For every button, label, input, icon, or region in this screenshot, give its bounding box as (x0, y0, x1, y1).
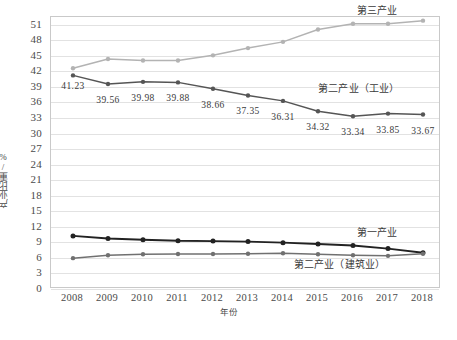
data-value-label: 34.32 (306, 122, 329, 132)
series-point-marker (281, 240, 286, 245)
x-tick-label: 2012 (201, 292, 223, 304)
y-tick-label: 15 (30, 205, 42, 216)
y-tick-label: 21 (30, 174, 42, 185)
series-point-marker (211, 53, 215, 57)
series-point-marker (421, 112, 425, 116)
data-value-label: 36.31 (271, 112, 294, 122)
series-point-marker (316, 241, 321, 246)
series-point-marker (386, 246, 391, 251)
y-tick-label: 0 (36, 283, 42, 294)
industry-proportion-line-chart: 产业比重/% 03691215182124273033363942454851 … (0, 0, 457, 340)
series-point-marker (106, 253, 110, 257)
series-point-marker (211, 252, 215, 256)
series-point-marker (176, 238, 181, 243)
series-point-marker (246, 239, 251, 244)
data-value-label: 37.35 (236, 106, 259, 116)
x-axis-tick-labels: 2008200920102011201220132014201520162017… (50, 292, 440, 308)
series-point-marker (281, 40, 285, 44)
series-point-marker (211, 239, 216, 244)
series-label: 第一产业 (357, 227, 398, 239)
y-tick-label: 51 (30, 18, 42, 29)
series-point-marker (246, 252, 250, 256)
plot-area: 41.2339.5639.9839.8838.6637.3536.3134.32… (50, 16, 440, 288)
y-tick-label: 36 (30, 96, 42, 107)
series-point-marker (71, 256, 75, 260)
series-point-marker (316, 27, 320, 31)
series-label: 第二产业（建筑业） (294, 259, 386, 271)
y-tick-label: 33 (30, 112, 42, 123)
x-tick-label: 2009 (96, 292, 118, 304)
series-point-marker (421, 252, 425, 256)
y-tick-label: 6 (36, 251, 42, 262)
series-point-marker (176, 80, 180, 84)
y-tick-label: 27 (30, 143, 42, 154)
series-point-marker (141, 80, 145, 84)
series-lines (51, 17, 441, 289)
data-value-label: 41.23 (61, 81, 84, 91)
series-point-marker (386, 254, 390, 258)
series-line (73, 21, 423, 69)
y-tick-label: 42 (30, 65, 42, 76)
series-point-marker (351, 253, 355, 257)
series-point-marker (316, 109, 320, 113)
series-point-marker (351, 243, 356, 248)
series-point-marker (71, 66, 75, 70)
series-point-marker (71, 233, 76, 238)
series-point-marker (246, 46, 250, 50)
data-value-label: 39.88 (166, 93, 189, 103)
x-tick-label: 2008 (61, 292, 83, 304)
series-point-marker (351, 114, 355, 118)
series-point-marker (106, 57, 110, 61)
series-label: 第二产业（工业） (318, 83, 400, 95)
y-tick-label: 24 (30, 158, 42, 169)
x-axis-title: 年份 (0, 307, 457, 317)
data-value-label: 38.66 (201, 100, 224, 110)
series-point-marker (106, 82, 110, 86)
x-tick-label: 2015 (306, 292, 328, 304)
series-point-marker (141, 58, 145, 62)
y-axis-tick-labels: 03691215182124273033363942454851 (0, 16, 46, 288)
series-point-marker (281, 251, 285, 255)
data-value-label: 33.85 (376, 125, 399, 135)
series-point-marker (141, 252, 145, 256)
x-tick-label: 2011 (166, 292, 187, 304)
y-tick-label: 45 (30, 49, 42, 60)
y-tick-label: 3 (36, 267, 42, 278)
series-label: 第三产业 (357, 5, 398, 17)
gridline (51, 289, 439, 290)
data-value-label: 33.34 (341, 127, 364, 137)
series-point-marker (421, 18, 425, 22)
x-tick-label: 2018 (411, 292, 433, 304)
y-tick-label: 12 (30, 220, 42, 231)
y-tick-label: 39 (30, 80, 42, 91)
series-point-marker (386, 22, 390, 26)
data-value-label: 39.56 (96, 95, 119, 105)
series-point-marker (211, 87, 215, 91)
x-tick-label: 2016 (341, 292, 363, 304)
x-tick-label: 2017 (376, 292, 398, 304)
series-point-marker (176, 58, 180, 62)
data-value-label: 39.98 (131, 93, 154, 103)
x-tick-label: 2013 (236, 292, 258, 304)
series-point-marker (176, 252, 180, 256)
series-point-marker (106, 236, 111, 241)
x-tick-label: 2010 (131, 292, 153, 304)
y-tick-label: 30 (30, 127, 42, 138)
y-tick-label: 18 (30, 189, 42, 200)
data-value-label: 33.67 (411, 126, 434, 136)
series-point-marker (71, 73, 75, 77)
series-point-marker (386, 111, 390, 115)
series-point-marker (246, 93, 250, 97)
x-tick-label: 2014 (271, 292, 293, 304)
y-tick-label: 9 (36, 236, 42, 247)
series-point-marker (351, 22, 355, 26)
y-tick-label: 48 (30, 34, 42, 45)
series-point-marker (141, 237, 146, 242)
series-point-marker (316, 252, 320, 256)
series-point-marker (281, 99, 285, 103)
